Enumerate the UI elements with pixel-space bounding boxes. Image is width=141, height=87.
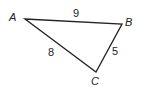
triangle-diagram: A B C 9 8 5 <box>0 0 141 87</box>
vertex-label-b: B <box>125 16 132 28</box>
side-label-bc: 5 <box>112 45 118 57</box>
triangle-abc <box>25 19 122 72</box>
side-label-ab: 9 <box>73 7 79 19</box>
side-label-ac: 8 <box>48 46 54 58</box>
vertex-label-c: C <box>91 75 99 87</box>
vertex-label-a: A <box>8 11 16 23</box>
